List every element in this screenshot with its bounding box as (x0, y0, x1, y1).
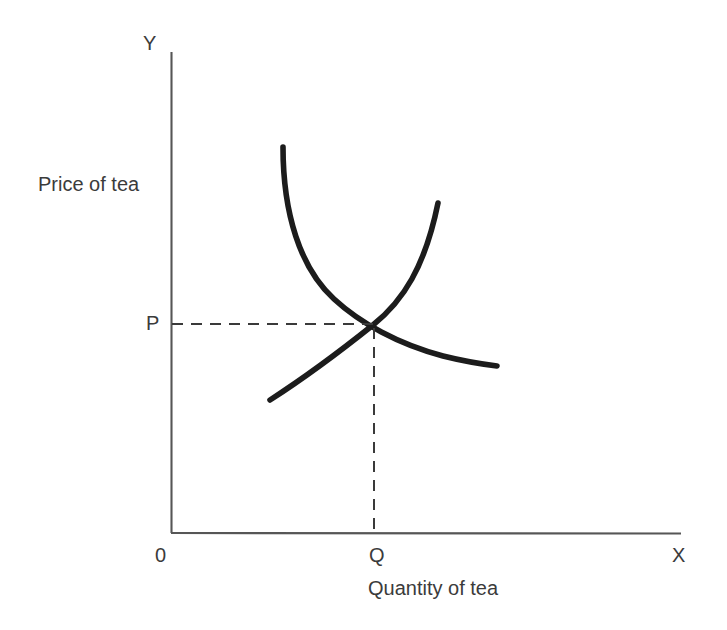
y-axis-title: Price of tea (38, 174, 139, 194)
x-axis-line (171, 533, 681, 534)
chart-canvas (0, 0, 727, 630)
equilibrium-quantity-label: Q (369, 545, 385, 565)
y-axis-letter-label: Y (143, 33, 156, 53)
supply-demand-chart: Y X 0 P Q Price of tea Quantity of tea (0, 0, 727, 630)
origin-label: 0 (155, 545, 166, 565)
x-axis-title: Quantity of tea (368, 578, 498, 598)
equilibrium-price-label: P (146, 313, 159, 333)
x-axis-letter-label: X (672, 545, 685, 565)
demand-curve (283, 147, 497, 366)
